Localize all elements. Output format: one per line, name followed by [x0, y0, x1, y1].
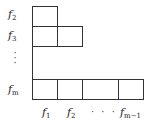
col-label-f1: f1	[42, 107, 51, 120]
staircase-diagram: f2 f3 ··· fm f1 f2 · · · fm−1	[0, 0, 152, 128]
row-label-f3: f3	[8, 30, 17, 43]
col-label-fm-1: fm−1	[120, 107, 141, 120]
cell-rowm-col2	[57, 79, 83, 100]
cell-rowm-col3	[82, 79, 119, 100]
vertical-ellipsis: ···	[11, 50, 19, 65]
row-label-fm: fm	[8, 84, 19, 97]
cell-row2-col1	[32, 26, 58, 47]
cell-rowm-col4	[118, 79, 144, 100]
cell-row2-col2	[57, 26, 83, 47]
col-label-f2: f2	[67, 107, 76, 120]
row-label-f2: f2	[8, 9, 17, 22]
cell-row1-col1	[32, 6, 58, 27]
cell-rowm-col1	[32, 79, 58, 100]
horizontal-ellipsis: · · ·	[91, 106, 117, 117]
